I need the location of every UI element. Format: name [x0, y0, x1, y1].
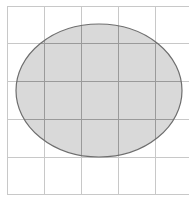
diagram-canvas: [0, 0, 189, 197]
grid-ellipse-diagram: [0, 0, 189, 197]
